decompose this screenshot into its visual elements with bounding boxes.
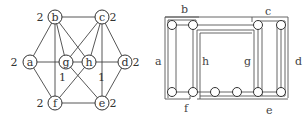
terminal-node bbox=[254, 21, 263, 30]
terminal-node bbox=[189, 88, 198, 97]
terminal-node bbox=[168, 88, 177, 97]
node-label-e: e bbox=[99, 97, 106, 110]
right-node-group bbox=[168, 21, 286, 97]
wire-b bbox=[165, 17, 258, 25]
node-label-c: c bbox=[99, 11, 105, 24]
wire-label-c: c bbox=[265, 5, 271, 18]
node-weight-f: 2 bbox=[37, 97, 44, 110]
terminal-node bbox=[233, 88, 242, 97]
edge-weight-label: 1 bbox=[59, 71, 66, 84]
wire-d bbox=[277, 25, 281, 92]
node-label-g: g bbox=[62, 56, 69, 69]
terminal-node bbox=[254, 88, 263, 97]
wire-label-b: b bbox=[181, 3, 188, 16]
node-weight-e: 2 bbox=[110, 97, 117, 110]
node-label-a: a bbox=[27, 56, 34, 69]
wire-label-d: d bbox=[295, 55, 302, 68]
wire-label-f: f bbox=[184, 102, 189, 115]
wire-label-e: e bbox=[266, 104, 273, 117]
node-weight-b: 2 bbox=[37, 11, 44, 24]
right-embedding-diagram: bcahgdfe bbox=[155, 3, 302, 117]
node-weight-a: 2 bbox=[11, 56, 18, 69]
terminal-node bbox=[277, 88, 286, 97]
terminal-node bbox=[211, 88, 220, 97]
wire-label-a: a bbox=[155, 55, 162, 68]
node-weight-c: 2 bbox=[110, 11, 117, 24]
wire-e bbox=[197, 96, 288, 99]
wire-label-h: h bbox=[202, 55, 209, 68]
node-label-h: h bbox=[85, 56, 92, 69]
wire-label-g: g bbox=[244, 55, 251, 68]
diagram-canvas: 11a2b2c2d2e2f2gh bbox=[0, 0, 307, 121]
wire-f bbox=[165, 92, 281, 99]
edge-weight-label: 1 bbox=[98, 71, 105, 84]
node-label-d: d bbox=[121, 56, 128, 69]
terminal-node bbox=[168, 21, 177, 30]
terminal-node bbox=[189, 21, 198, 30]
terminal-node bbox=[277, 21, 286, 30]
node-label-b: b bbox=[51, 11, 58, 24]
left-weighted-graph: 11a2b2c2d2e2f2gh bbox=[11, 10, 140, 110]
wire-g bbox=[258, 25, 262, 96]
node-weight-d: 2 bbox=[133, 56, 140, 69]
